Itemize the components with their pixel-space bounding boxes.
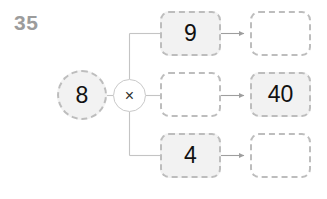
factor-box-row-top[interactable]: 9 <box>160 11 221 56</box>
multiply-icon: × <box>125 88 134 104</box>
product-box-row-bottom[interactable] <box>250 133 311 178</box>
factor-value-row-top: 9 <box>184 22 197 45</box>
product-box-row-middle[interactable]: 40 <box>250 72 311 117</box>
product-value-row-middle: 40 <box>268 83 294 106</box>
input-operand-value: 8 <box>76 84 89 107</box>
multiply-operator-node: × <box>113 79 146 112</box>
problem-number-label: 35 <box>14 12 38 33</box>
worksheet-canvas: 35 8 × 9 40 4 <box>0 0 327 199</box>
product-box-row-top[interactable] <box>250 11 311 56</box>
factor-box-row-bottom[interactable]: 4 <box>160 133 221 178</box>
factor-box-row-middle[interactable] <box>160 72 221 117</box>
input-operand-node[interactable]: 8 <box>57 70 107 120</box>
factor-value-row-bottom: 4 <box>184 144 197 167</box>
